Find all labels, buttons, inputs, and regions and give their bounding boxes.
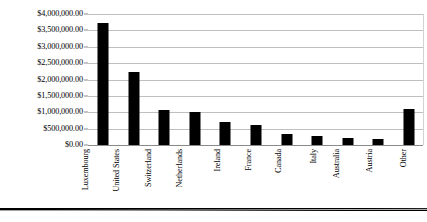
gridline (88, 145, 423, 146)
x-axis-label-slot: Australia (332, 147, 363, 209)
y-axis-tick-label: $1,000,000.00 (37, 108, 83, 116)
x-axis-tick-label: Switzerland (145, 149, 153, 187)
y-axis: $0.00$500,000.00$1,000,000.00$1,500,000.… (0, 0, 88, 159)
bar-slot (241, 14, 272, 145)
bar (342, 138, 353, 145)
x-axis-tick-label: Ireland (214, 149, 222, 171)
bar-slot (180, 14, 211, 145)
y-axis-tick-label: $2,500,000.00 (37, 59, 83, 67)
x-axis-tick-label: Other (400, 149, 408, 167)
bar (312, 136, 323, 145)
bar (281, 134, 292, 145)
x-axis-tick-label: Italy (310, 149, 318, 164)
x-axis-label-slot: Netherlands (180, 147, 211, 209)
y-axis-tick-label: $500,000.00 (43, 125, 83, 133)
bar-slot (393, 14, 424, 145)
bar (220, 122, 231, 145)
bar (373, 139, 384, 145)
bar-chart-figure: $0.00$500,000.00$1,000,000.00$1,500,000.… (0, 0, 427, 222)
bar-slot (119, 14, 150, 145)
bar-slot (363, 14, 394, 145)
bar (98, 23, 109, 145)
x-axis-label-slot: Austria (363, 147, 394, 209)
x-axis-tick-label: United States (113, 149, 121, 192)
x-axis-label-slot: Ireland (210, 147, 241, 209)
bar (403, 109, 414, 145)
y-axis-tick-label: $3,500,000.00 (37, 26, 83, 34)
y-axis-tick-label: $1,500,000.00 (37, 92, 83, 100)
bar (189, 112, 200, 145)
x-axis-label-slot: Italy (302, 147, 333, 209)
bar-slot (332, 14, 363, 145)
x-axis-label-slot: Canada (271, 147, 302, 209)
bar-slot (302, 14, 333, 145)
bar (250, 125, 261, 145)
y-axis-tick-label: $3,000,000.00 (37, 43, 83, 51)
x-axis-label-slot: France (241, 147, 272, 209)
x-axis: LuxembourgUnited StatesSwitzerlandNether… (88, 147, 424, 209)
bar (128, 72, 139, 145)
bars-layer (88, 14, 424, 145)
y-axis-tick-label: $4,000,000.00 (37, 10, 83, 18)
y-axis-tick-label: $2,000,000.00 (37, 75, 83, 83)
x-axis-tick-label: Netherlands (176, 149, 184, 187)
x-axis-tick-label: Austria (366, 149, 374, 172)
bar-slot (210, 14, 241, 145)
x-axis-tick-label: Luxembourg (83, 149, 91, 190)
bar-slot (88, 14, 119, 145)
x-axis-label-slot: Other (393, 147, 424, 209)
bar-slot (271, 14, 302, 145)
bar (159, 110, 170, 145)
x-axis-tick-label: France (245, 149, 253, 171)
x-axis-tick-label: Australia (333, 149, 341, 178)
y-axis-tick-label: $0.00 (65, 141, 83, 149)
bar-slot (149, 14, 180, 145)
x-axis-tick-label: Canada (275, 149, 283, 173)
